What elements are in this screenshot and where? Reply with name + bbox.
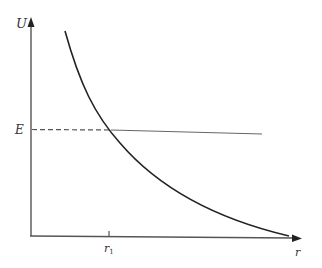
r1-label: r1: [104, 242, 114, 256]
r-axis-label: r: [295, 246, 301, 259]
r-axis: [30, 236, 293, 238]
u-axis-label: U: [16, 16, 28, 31]
energy-line-solid: [111, 130, 262, 134]
r-axis-arrow-icon: [292, 235, 302, 243]
energy-line-dashed: [32, 130, 111, 131]
diagram-canvas: U E r1 r: [0, 0, 322, 268]
energy-label: E: [14, 123, 24, 137]
r1-label-sub: 1: [109, 248, 113, 256]
u-axis-arrow-icon: [28, 17, 35, 27]
